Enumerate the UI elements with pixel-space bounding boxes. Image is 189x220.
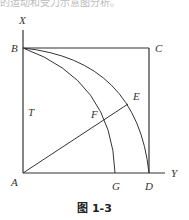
- label-point-e: E: [132, 90, 140, 102]
- geometry-diagram: X Y B C A G D E F T: [0, 0, 189, 220]
- label-point-g: G: [112, 180, 120, 192]
- label-point-b: B: [11, 42, 18, 54]
- label-point-c: C: [155, 42, 163, 54]
- label-point-f: F: [90, 108, 98, 120]
- arc-bd: [23, 48, 149, 173]
- label-y-axis: Y: [171, 167, 179, 179]
- label-point-t: T: [28, 106, 35, 118]
- label-point-a: A: [10, 176, 18, 188]
- figure-caption: 图 1-3: [0, 199, 189, 215]
- label-point-d: D: [144, 180, 153, 192]
- segment-ae: [23, 104, 128, 173]
- arc-bg: [23, 48, 115, 173]
- label-x-axis: X: [18, 14, 27, 26]
